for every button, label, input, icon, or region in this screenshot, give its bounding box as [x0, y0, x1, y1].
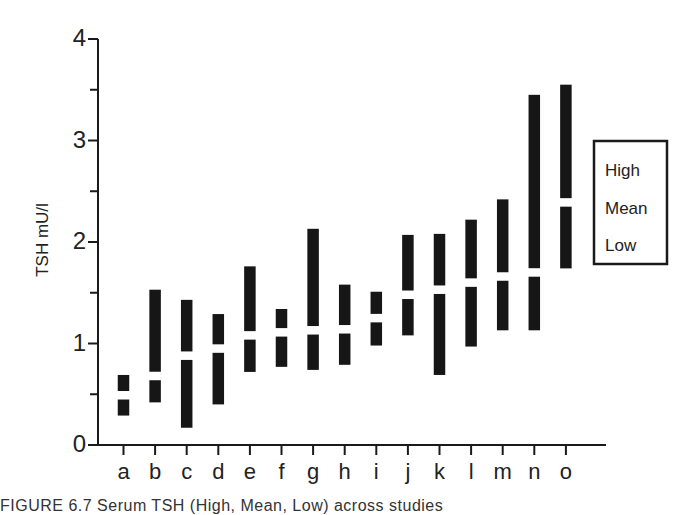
bar-lower-segment — [339, 334, 351, 365]
bar-upper-segment — [371, 292, 383, 314]
bar-upper-segment — [402, 235, 414, 291]
bar-upper-segment — [497, 199, 509, 272]
x-tick-label-b: b — [149, 459, 161, 484]
bar-upper-segment — [181, 300, 193, 352]
bar-lower-segment — [497, 281, 509, 331]
legend-entry-mean: Mean — [605, 199, 648, 218]
range-bar-d — [213, 314, 225, 404]
bar-lower-segment — [276, 337, 288, 367]
x-tick-label-m: m — [494, 459, 512, 484]
y-tick-label: 3 — [73, 126, 86, 153]
range-bar-e — [244, 266, 256, 372]
range-bar-k — [434, 234, 446, 375]
range-bar-l — [465, 220, 477, 347]
bar-upper-segment — [529, 95, 541, 268]
y-tick-label: 0 — [73, 430, 86, 457]
range-bar-m — [497, 199, 509, 330]
y-axis-label: TSH mU/l — [33, 203, 52, 277]
range-bar-c — [181, 300, 193, 428]
y-tick-label: 4 — [73, 24, 86, 51]
bars — [118, 85, 572, 428]
legend-entry-low: Low — [605, 236, 637, 255]
range-bar-i — [371, 292, 383, 346]
x-tick-label-a: a — [117, 459, 130, 484]
range-bar-h — [339, 285, 351, 365]
bar-lower-segment — [371, 322, 383, 345]
bar-upper-segment — [276, 309, 288, 328]
bar-upper-segment — [434, 234, 446, 286]
x-tick-label-j: j — [404, 459, 410, 484]
y-tick-label: 1 — [73, 329, 86, 356]
x-tick-label-o: o — [560, 459, 572, 484]
bar-lower-segment — [402, 299, 414, 335]
legend-entry-high: High — [605, 161, 640, 180]
y-axis-label-group: TSH mU/l — [33, 203, 52, 277]
x-tick-label-h: h — [339, 459, 351, 484]
legend: High Mean Low — [594, 141, 667, 264]
bar-upper-segment — [118, 375, 130, 391]
bar-lower-segment — [529, 277, 541, 331]
bar-lower-segment — [213, 353, 225, 405]
bar-upper-segment — [213, 314, 225, 344]
x-tick-label-e: e — [244, 459, 256, 484]
bar-lower-segment — [244, 340, 256, 372]
range-bar-f — [276, 309, 288, 367]
range-bar-b — [149, 290, 161, 403]
x-axis: abcdefghijklmno — [97, 445, 606, 484]
range-bar-n — [529, 95, 541, 330]
bar-upper-segment — [149, 290, 161, 372]
bar-lower-segment — [434, 294, 446, 375]
bar-lower-segment — [149, 380, 161, 402]
x-tick-label-c: c — [181, 459, 192, 484]
figure-caption: FIGURE 6.7 Serum TSH (High, Mean, Low) a… — [0, 497, 443, 515]
range-bar-g — [307, 229, 319, 370]
y-axis: 01234 — [73, 24, 98, 457]
bar-lower-segment — [118, 400, 130, 416]
x-tick-label-i: i — [374, 459, 379, 484]
bar-upper-segment — [465, 220, 477, 279]
bar-upper-segment — [560, 85, 572, 198]
range-bar-a — [118, 375, 130, 416]
bar-lower-segment — [181, 360, 193, 428]
range-bar-o — [560, 85, 572, 269]
y-tick-label: 2 — [73, 227, 86, 254]
bar-lower-segment — [560, 207, 572, 269]
range-bar-j — [402, 235, 414, 335]
x-tick-label-n: n — [528, 459, 540, 484]
x-tick-label-g: g — [307, 459, 319, 484]
bar-upper-segment — [244, 266, 256, 331]
x-tick-label-f: f — [278, 459, 285, 484]
bar-lower-segment — [307, 335, 319, 370]
bar-lower-segment — [465, 287, 477, 347]
x-tick-label-d: d — [212, 459, 224, 484]
x-tick-label-l: l — [469, 459, 474, 484]
bar-upper-segment — [339, 285, 351, 325]
bar-upper-segment — [307, 229, 319, 326]
x-tick-label-k: k — [434, 459, 446, 484]
